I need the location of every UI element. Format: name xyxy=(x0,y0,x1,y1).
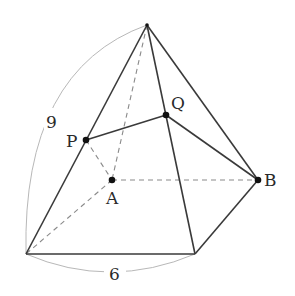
point-P xyxy=(83,137,90,144)
edge-D-B xyxy=(195,180,258,254)
hidden-edge-A-C xyxy=(26,180,112,254)
hidden-edge-P-A xyxy=(86,140,112,180)
label-A: A xyxy=(105,188,119,208)
segment-Q-B xyxy=(166,115,258,180)
label-P: P xyxy=(66,131,77,151)
point-Q xyxy=(163,112,170,119)
point-A xyxy=(109,177,116,184)
pyramid-diagram: P Q A B 9 6 xyxy=(0,0,295,296)
apex-point xyxy=(145,23,149,27)
label-Q: Q xyxy=(171,93,185,113)
hidden-edge-apex-A xyxy=(112,25,147,180)
label-slant-length: 9 xyxy=(46,112,57,132)
label-base-length: 6 xyxy=(109,264,120,284)
point-B xyxy=(255,177,262,184)
label-B: B xyxy=(264,170,277,190)
